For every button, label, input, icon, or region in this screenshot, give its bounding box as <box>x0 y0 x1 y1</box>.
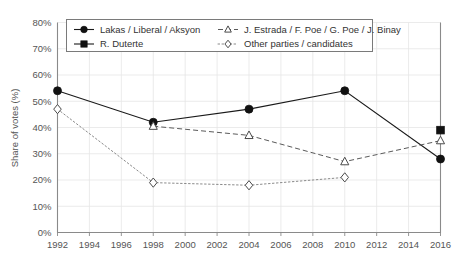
x-axis-tick-label: 2006 <box>270 239 291 250</box>
data-point-circle <box>81 26 88 33</box>
y-axis-tick-label: 50% <box>32 96 52 107</box>
chart-container: 1992199419961998200020022004200620082010… <box>0 0 473 264</box>
y-axis-tick-label: 60% <box>32 69 52 80</box>
y-axis-title: Share of votes (%) <box>9 89 20 168</box>
x-axis-tick-label: 2004 <box>238 239 259 250</box>
x-axis-tick-label: 2014 <box>398 239 419 250</box>
series-1 <box>437 126 445 134</box>
x-axis-tick-label: 1996 <box>111 239 132 250</box>
data-point-square <box>81 41 87 47</box>
legend-label: Other parties / candidates <box>244 38 353 49</box>
legend-entry-1[interactable]: J. Estrada / F. Poe / G. Poe / J. Binay <box>218 24 401 35</box>
legend-label: Lakas / Liberal / Aksyon <box>100 24 200 35</box>
y-axis-tick-labels-group: 0%10%20%30%40%50%60%70%80% <box>32 17 52 238</box>
legend-label: J. Estrada / F. Poe / G. Poe / J. Binay <box>244 24 401 35</box>
chart-legend: Lakas / Liberal / AksyonJ. Estrada / F. … <box>67 20 402 52</box>
data-point-circle <box>341 87 349 95</box>
y-axis-tick-label: 20% <box>32 174 52 185</box>
y-axis-tick-label: 70% <box>32 43 52 54</box>
y-axis-tick-label: 30% <box>32 148 52 159</box>
data-point-circle <box>245 105 253 113</box>
y-axis-tick-label: 80% <box>32 17 52 28</box>
vote-share-line-chart: 1992199419961998200020022004200620082010… <box>0 0 473 264</box>
x-axis-tick-label: 2016 <box>430 239 451 250</box>
y-axis-tick-label: 10% <box>32 201 52 212</box>
x-axis-tick-label: 2000 <box>175 239 196 250</box>
x-axis-tick-label: 1994 <box>79 239 100 250</box>
x-axis-tick-label: 2010 <box>334 239 355 250</box>
x-axis-tick-label: 2012 <box>366 239 387 250</box>
x-axis-tick-label: 1992 <box>47 239 68 250</box>
x-axis-tick-label: 2002 <box>207 239 228 250</box>
y-axis-tick-label: 40% <box>32 122 52 133</box>
legend-label: R. Duterte <box>100 38 143 49</box>
data-point-circle <box>437 155 445 163</box>
x-axis-tick-label: 2008 <box>302 239 323 250</box>
y-axis-tick-label: 0% <box>38 227 52 238</box>
data-point-square <box>437 126 445 134</box>
data-point-circle <box>54 87 62 95</box>
x-axis-tick-label: 1998 <box>143 239 164 250</box>
